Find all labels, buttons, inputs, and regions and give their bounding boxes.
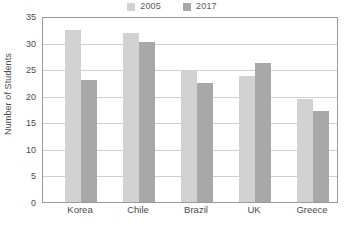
legend-item-2017: 2017 (183, 2, 217, 11)
y-axis-ticks: 05101520253035 (15, 17, 39, 203)
bar-korea-2017 (81, 80, 97, 202)
y-tick-label: 35 (26, 13, 36, 22)
x-axis-labels: KoreaChileBrazilUKGreece (42, 205, 338, 221)
legend-swatch-2017 (183, 3, 191, 11)
y-tick-label: 20 (26, 92, 36, 101)
y-tick-label: 30 (26, 39, 36, 48)
y-tick-label: 10 (26, 145, 36, 154)
legend-swatch-2005 (127, 3, 135, 11)
plot-frame (42, 17, 338, 203)
bar-greece-2017 (313, 111, 329, 202)
y-tick-label: 0 (31, 199, 36, 208)
x-label-chile: Chile (127, 205, 149, 215)
bar-chile-2017 (139, 42, 155, 202)
legend-item-2005: 2005 (127, 2, 161, 11)
plot-area: 05101520253035 (15, 17, 338, 203)
y-tick-label: 15 (26, 119, 36, 128)
legend-label-2017: 2017 (196, 2, 217, 11)
bar-chart: 2005 2017 Number of Students 05101520253… (0, 0, 344, 229)
bars-layer (43, 18, 337, 202)
bar-brazil-2017 (197, 83, 213, 202)
legend-label-2005: 2005 (140, 2, 161, 11)
x-label-brazil: Brazil (184, 205, 208, 215)
y-tick-label: 25 (26, 66, 36, 75)
y-axis-title-text: Number of Students (3, 53, 13, 135)
x-label-korea: Korea (67, 205, 92, 215)
bar-uk-2005 (239, 76, 255, 202)
y-axis-title: Number of Students (1, 0, 15, 187)
chart-legend: 2005 2017 (0, 2, 344, 11)
bar-brazil-2005 (181, 71, 197, 202)
bar-uk-2017 (255, 63, 271, 202)
bar-chile-2005 (123, 33, 139, 202)
x-label-uk: UK (247, 205, 260, 215)
bar-greece-2005 (297, 99, 313, 202)
y-tick-label: 5 (31, 172, 36, 181)
x-label-greece: Greece (296, 205, 327, 215)
bar-korea-2005 (65, 30, 81, 202)
